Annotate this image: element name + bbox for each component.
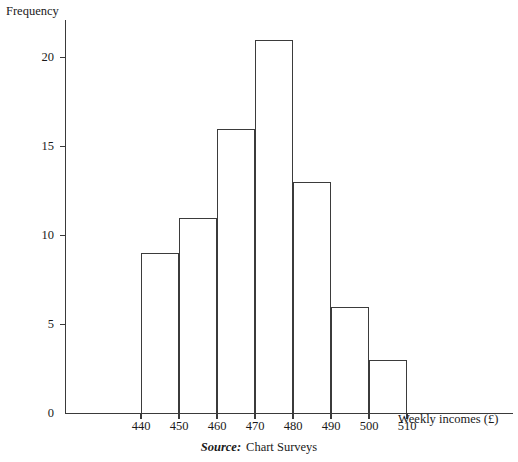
y-axis-title: Frequency	[6, 4, 59, 19]
source-value: Chart Surveys	[246, 440, 317, 454]
x-tick-label: 440	[121, 420, 161, 433]
histogram-bar	[293, 182, 331, 413]
x-tick-label: 450	[159, 420, 199, 433]
histogram-figure: Frequency 05101520 440450460470480490500…	[0, 0, 518, 462]
histogram-bar	[179, 218, 217, 414]
y-tick-mark	[60, 324, 66, 325]
y-tick-label: 5	[12, 318, 54, 331]
source-caption: Source:Chart Surveys	[0, 440, 518, 455]
y-axis-line	[65, 20, 66, 414]
x-tick-label: 500	[349, 420, 389, 433]
histogram-bar	[369, 360, 407, 413]
y-tick-label: 10	[12, 229, 54, 242]
histogram-bar	[217, 129, 255, 414]
x-axis-title: Weekly incomes (£)	[398, 412, 498, 427]
y-tick-mark	[60, 235, 66, 236]
source-label: Source:	[201, 440, 241, 454]
y-tick-label: 15	[12, 140, 54, 153]
x-tick-label: 460	[197, 420, 237, 433]
x-tick-label: 480	[273, 420, 313, 433]
x-tick-label: 490	[311, 420, 351, 433]
histogram-bar	[331, 307, 369, 414]
y-tick-label: 20	[12, 51, 54, 64]
x-tick-label: 470	[235, 420, 275, 433]
y-tick-mark	[60, 57, 66, 58]
y-tick-mark	[60, 146, 66, 147]
y-tick-label: 0	[12, 407, 54, 420]
histogram-bar	[255, 40, 293, 414]
histogram-bar	[141, 253, 179, 413]
